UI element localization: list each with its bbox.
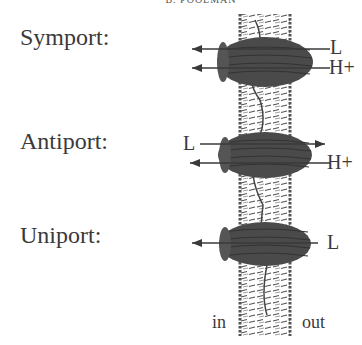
symport-protein xyxy=(217,37,313,87)
antiport-ion-l: L xyxy=(183,132,195,155)
symport-ion-h: H+ xyxy=(329,56,355,79)
uniport-ion-l: L xyxy=(327,231,339,254)
antiport-ion-h: H+ xyxy=(327,151,353,174)
uniport-protein xyxy=(219,222,311,266)
inside-label: in xyxy=(212,312,226,333)
antiport-protein xyxy=(218,132,312,178)
outside-label: out xyxy=(302,312,325,333)
membrane-diagram xyxy=(0,0,362,345)
